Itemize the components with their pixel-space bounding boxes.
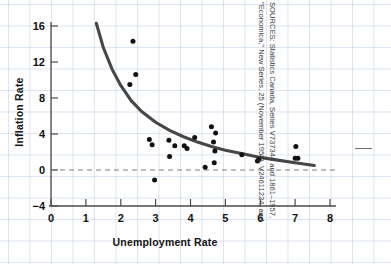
y-tick-label: −4 <box>32 200 45 212</box>
x-tick-label: 8 <box>327 212 333 224</box>
data-point <box>211 140 216 145</box>
x-tick-label: 4 <box>187 212 194 224</box>
x-tick-labels: 0 1 2 3 4 5 6 7 8 <box>48 212 333 224</box>
data-point <box>212 160 217 165</box>
data-point <box>203 165 208 170</box>
data-point <box>209 124 214 129</box>
phillips-curve-plot: 16 12 8 4 0 −4 0 1 2 3 4 5 6 7 8 <box>0 0 391 264</box>
y-tick-label: 8 <box>39 92 45 104</box>
y-tick-label: 4 <box>39 128 46 140</box>
data-point <box>152 177 157 182</box>
y-tick-labels: 16 12 8 4 0 −4 <box>32 20 45 212</box>
x-tick-label: 2 <box>118 212 124 224</box>
data-point <box>239 152 244 157</box>
x-tick-label: 3 <box>153 212 159 224</box>
x-tick-label: 0 <box>48 212 54 224</box>
x-tick-label: 1 <box>83 212 89 224</box>
y-tick-label: 0 <box>39 164 45 176</box>
data-point <box>213 131 218 136</box>
x-axis-ticks <box>51 199 330 206</box>
data-point <box>147 137 152 142</box>
data-point <box>172 143 177 148</box>
data-point <box>192 135 197 140</box>
y-tick-label: 16 <box>33 20 45 32</box>
x-tick-label: 5 <box>222 212 228 224</box>
data-point <box>167 154 172 159</box>
data-point <box>295 156 300 161</box>
source-note: SOURCES: Statistics Canada, Series V7373… <box>252 0 278 264</box>
data-point <box>212 149 217 154</box>
data-point <box>166 138 171 143</box>
y-tick-label: 12 <box>33 56 45 68</box>
data-point <box>150 142 155 147</box>
y-axis-title: Inflation Rate <box>13 57 25 167</box>
data-point <box>293 144 298 149</box>
data-point <box>127 82 132 87</box>
data-point <box>133 72 138 77</box>
x-tick-label: 7 <box>292 212 298 224</box>
fitted-phillips-curve <box>96 23 314 165</box>
data-point <box>130 39 135 44</box>
x-axis-title: Unemployment Rate <box>0 236 330 248</box>
data-point <box>185 146 190 151</box>
y-axis-ticks <box>51 26 58 206</box>
page-divider-rule <box>355 148 372 149</box>
chart-figure: 16 12 8 4 0 −4 0 1 2 3 4 5 6 7 8 Unemplo… <box>0 0 391 264</box>
